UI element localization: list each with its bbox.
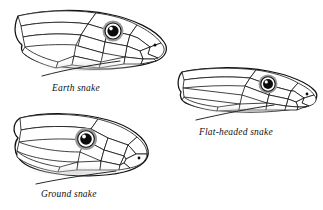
figure-earth-snake — [8, 4, 176, 74]
figure-ground-snake — [8, 108, 156, 182]
caption-flat-headed-snake: Flat-headed snake — [199, 128, 273, 138]
eye-ground-snake — [75, 128, 97, 150]
illustration-plate: Earth snake — [0, 0, 323, 210]
eye-flat-headed-snake — [259, 75, 278, 94]
caption-earth-snake: Earth snake — [52, 84, 100, 94]
eye-earth-snake — [103, 21, 124, 42]
caption-ground-snake: Ground snake — [41, 190, 97, 200]
figure-flat-headed-snake — [176, 60, 322, 118]
